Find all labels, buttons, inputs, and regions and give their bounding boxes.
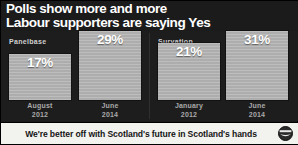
bar-slot: 21% January 2012 bbox=[158, 31, 220, 121]
poll-group-survation: Survation 21% January 2012 31% June 2014 bbox=[150, 31, 298, 121]
bar-value-label: 21% bbox=[158, 45, 220, 59]
tick-month: June bbox=[248, 102, 265, 109]
tick-year: 2012 bbox=[158, 111, 220, 120]
tick-year: 2012 bbox=[9, 111, 71, 120]
bar-slot: 29% June 2014 bbox=[79, 31, 141, 121]
tick-month: August bbox=[27, 102, 52, 109]
tick-year: 2014 bbox=[226, 111, 288, 120]
headline-line-1: Polls show more and more bbox=[6, 2, 295, 16]
poll-group-panelbase: Panelbase 17% August 2012 29% June 2014 bbox=[1, 31, 149, 121]
tick-month: June bbox=[101, 102, 118, 109]
x-axis-tick: August 2012 bbox=[9, 102, 71, 119]
bar: 21% bbox=[158, 43, 220, 100]
slogan-banner: We're better off with Scotland's future … bbox=[1, 122, 298, 144]
x-axis-tick: June 2014 bbox=[226, 102, 288, 119]
bar: 31% bbox=[226, 31, 288, 100]
bar: 29% bbox=[79, 31, 141, 100]
bar-value-label: 31% bbox=[226, 33, 288, 47]
tick-year: 2014 bbox=[79, 111, 141, 120]
bar-slot: 17% August 2012 bbox=[9, 31, 71, 121]
bar: 17% bbox=[9, 54, 71, 100]
headline: Polls show more and more Labour supporte… bbox=[1, 1, 298, 31]
slogan-text: We're better off with Scotland's future … bbox=[1, 129, 275, 139]
x-axis-tick: January 2012 bbox=[158, 102, 220, 119]
bar-value-label: 17% bbox=[9, 56, 71, 70]
circle-saltire-logo-icon bbox=[275, 123, 298, 144]
bar-value-label: 29% bbox=[79, 33, 141, 47]
infographic-poster: Polls show more and more Labour supporte… bbox=[0, 0, 298, 145]
headline-line-2: Labour supporters are saying Yes bbox=[6, 16, 295, 30]
bar-slot: 31% June 2014 bbox=[226, 31, 288, 121]
x-axis-tick: June 2014 bbox=[79, 102, 141, 119]
tick-month: January bbox=[175, 102, 203, 109]
bar-chart: Panelbase 17% August 2012 29% June 2014 bbox=[1, 31, 298, 121]
